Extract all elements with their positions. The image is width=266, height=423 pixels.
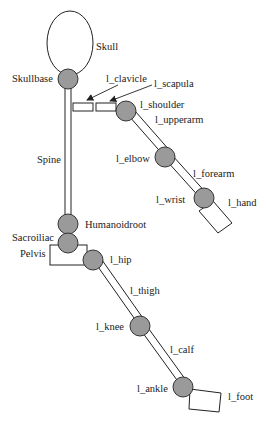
joint-l-knee	[130, 316, 150, 336]
label-l-thigh: l_thigh	[130, 285, 161, 296]
skeleton-diagram: Skull Spine Skullbase l_clavicle l_scapu…	[0, 0, 266, 423]
label-l-hand: l_hand	[228, 197, 257, 208]
label-l-calf: l_calf	[170, 344, 194, 355]
label-l-shoulder: l_shoulder	[140, 99, 185, 110]
l-clavicle-segment	[73, 103, 93, 111]
label-l-wrist: l_wrist	[156, 194, 185, 205]
label-l-knee: l_knee	[96, 321, 124, 332]
label-l-clavicle: l_clavicle	[106, 73, 147, 84]
label-l-hip: l_hip	[110, 254, 132, 265]
label-sacroiliac: Sacroiliac	[12, 232, 54, 243]
label-l-foot: l_foot	[228, 391, 253, 402]
joint-l-wrist	[194, 188, 214, 208]
skull-segment	[47, 11, 93, 75]
label-spine: Spine	[37, 154, 61, 165]
l-foot-segment	[189, 389, 221, 412]
joint-sacroiliac	[58, 233, 78, 253]
joint-l-elbow	[155, 147, 175, 167]
l-clavicle-leader	[87, 85, 118, 100]
label-skull: Skull	[96, 41, 118, 52]
label-l-scapula: l_scapula	[154, 78, 194, 89]
l-scapula-segment	[96, 103, 116, 111]
joint-l-hip	[83, 250, 103, 270]
label-l-upperarm: l_upperarm	[155, 114, 203, 125]
label-pelvis: Pelvis	[20, 248, 46, 259]
label-l-elbow: l_elbow	[116, 153, 150, 164]
joint-skullbase	[58, 69, 78, 89]
label-l-forearm: l_forearm	[193, 168, 234, 179]
joint-l-shoulder	[116, 101, 136, 121]
spine-segment	[65, 86, 71, 226]
label-l-ankle: l_ankle	[137, 383, 168, 394]
joint-humanoidroot	[58, 214, 78, 234]
label-humanoidroot: Humanoidroot	[85, 219, 146, 230]
joint-l-ankle	[173, 377, 193, 397]
label-skullbase: Skullbase	[12, 73, 53, 84]
